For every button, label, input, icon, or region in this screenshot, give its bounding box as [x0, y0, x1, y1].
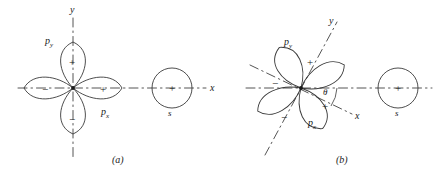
panel-b-theta-label: θ: [323, 88, 327, 97]
panel-a-lobe-py-negative-sign: −: [69, 114, 75, 125]
panel-a-py-label-sub: y: [50, 41, 53, 49]
panel-a-nucleus: [71, 86, 75, 90]
panel-b-x-axis-label: x: [355, 111, 359, 121]
panel-b: [236, 22, 432, 155]
orbital-overlap-diagram: [0, 0, 443, 181]
panel-b-py-label: py: [284, 37, 292, 50]
panel-b-y-axis-label: y: [329, 16, 333, 26]
panel-b-lobe-py-positive-sign: +: [307, 57, 313, 68]
panel-a-lobe-py-positive-sign: +: [69, 57, 75, 68]
panel-b-px-label: px: [308, 118, 316, 131]
panel-b-lobe-px-negative: [253, 78, 307, 120]
panel-a-py-label: py: [45, 36, 53, 49]
panel-a-px-label-sub: x: [106, 112, 109, 120]
panel-a-y-axis-label: y: [70, 5, 74, 15]
panel-b-s-orbital-sign: +: [395, 83, 401, 94]
panel-a-s-orbital-label: s: [168, 109, 172, 118]
panel-b-s-orbital-label: s: [395, 109, 399, 118]
panel-b-lobe-px-negative-sign: −: [272, 78, 278, 89]
panel-a-px-label: px: [101, 107, 109, 120]
panel-b-nucleus: [299, 86, 303, 90]
panel-b-px-label-sub: x: [313, 123, 316, 131]
panel-a-lobe-px-positive-sign: +: [100, 84, 106, 95]
panel-b-caption: (b): [336, 155, 348, 165]
panel-b-theta-arc: [331, 88, 337, 106]
panel-b-lobe-py-negative-sign: −: [281, 112, 287, 123]
panel-a-s-orbital-sign: +: [169, 83, 175, 94]
panel-b-py-label-sub: y: [289, 42, 292, 50]
panel-b-lobe-px-positive-sign: +: [322, 101, 328, 112]
panel-a-lobe-px-negative-sign: −: [42, 84, 48, 95]
panel-a-x-axis-label: x: [210, 83, 214, 93]
panel-a-caption: (a): [112, 155, 124, 165]
